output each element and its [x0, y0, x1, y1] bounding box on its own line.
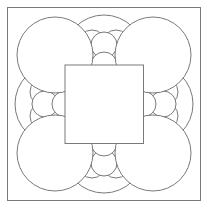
inner-square	[65, 65, 144, 144]
geometric-diagram	[0, 0, 207, 207]
diagram-svg	[0, 0, 207, 207]
